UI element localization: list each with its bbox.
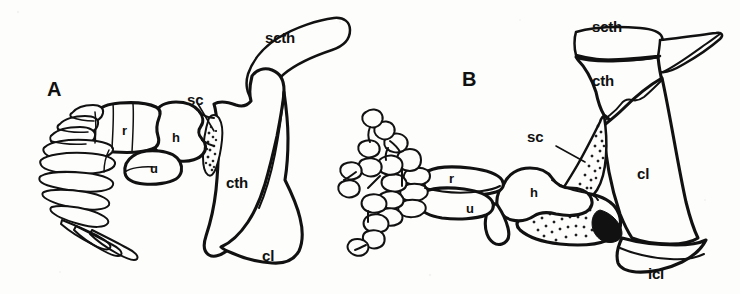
panel-b-label-u: u: [466, 202, 474, 215]
panel-a-drawing: [39, 18, 350, 263]
panel-a-label-cth: cth: [226, 175, 248, 190]
figure-linework: [0, 0, 740, 294]
panel-a-label-scth: scth: [265, 30, 295, 45]
panel-a-label-u: u: [150, 162, 158, 175]
panel-a-label-r: r: [122, 124, 127, 137]
panel-a-label-sc: sc: [187, 92, 203, 107]
panel-b-label: B: [462, 69, 477, 89]
panel-a-fin-radials-lower: [39, 172, 113, 227]
panel-a-label-cl: cl: [262, 248, 274, 263]
panel-b-label-r: r: [449, 172, 454, 185]
panel-b-label-cl: cl: [637, 166, 649, 181]
panel-b-sc-leader: [556, 146, 585, 162]
anatomical-figure: A scth sc cth cl h r u B scth cth sc cl …: [0, 0, 740, 294]
panel-b-label-scth: scth: [592, 19, 622, 34]
panel-b-label-sc: sc: [527, 129, 543, 144]
panel-b-label-cth: cth: [592, 73, 614, 88]
panel-b-label-icl: icl: [648, 266, 664, 281]
panel-a-label: A: [47, 79, 62, 99]
panel-b-label-h: h: [530, 186, 538, 199]
panel-a-label-h: h: [172, 131, 180, 144]
panel-b-drawing: [338, 27, 722, 272]
